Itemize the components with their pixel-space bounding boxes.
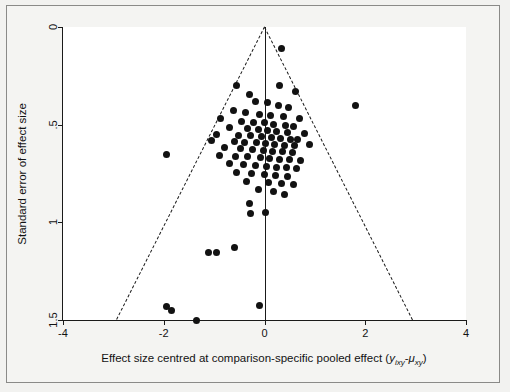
scatter-point xyxy=(248,170,255,177)
y-axis-tick-label: 1 xyxy=(48,219,59,225)
scatter-point xyxy=(296,115,303,122)
scatter-point xyxy=(270,188,277,195)
plot-area: -4-20240.511.5 xyxy=(62,27,466,321)
scatter-point xyxy=(244,153,251,160)
scatter-point xyxy=(260,147,267,154)
scatter-point xyxy=(278,45,285,52)
scatter-point xyxy=(262,140,269,147)
y-axis-title: Standard error of effect size xyxy=(14,27,30,321)
scatter-point xyxy=(266,155,273,162)
scatter-point xyxy=(226,124,233,131)
scatter-point xyxy=(290,181,297,188)
scatter-point xyxy=(237,145,244,152)
x-axis-title-prefix: Effect size centred at comparison-specif… xyxy=(101,352,389,364)
y-axis-tick-label: 1.5 xyxy=(48,312,59,327)
scatter-point xyxy=(297,157,304,164)
y-axis-tick-label: .5 xyxy=(48,120,59,129)
scatter-point xyxy=(252,98,259,105)
scatter-point xyxy=(255,126,262,133)
x-axis-tick-label: 4 xyxy=(463,327,469,339)
funnel-plot-figure: Standard error of effect size -4-20240.5… xyxy=(0,0,510,392)
scatter-point xyxy=(291,142,298,149)
scatter-point xyxy=(242,109,249,116)
scatter-point xyxy=(243,178,250,185)
x-axis-tick-label: 2 xyxy=(362,327,368,339)
scatter-point xyxy=(253,139,260,146)
scatter-point xyxy=(284,173,291,180)
x-axis-tick xyxy=(365,320,366,325)
scatter-point xyxy=(268,134,275,141)
scatter-point xyxy=(269,148,276,155)
scatter-point xyxy=(256,111,263,118)
scatter-point xyxy=(250,119,257,126)
scatter-point xyxy=(273,164,280,171)
scatter-point xyxy=(289,149,296,156)
x-axis-tick-label: 0 xyxy=(261,327,267,339)
scatter-point xyxy=(306,141,313,148)
scatter-point xyxy=(301,130,308,137)
scatter-point xyxy=(352,102,359,109)
scatter-point xyxy=(264,99,271,106)
x-axis-tick-label: -2 xyxy=(159,327,169,339)
scatter-point xyxy=(233,169,240,176)
scatter-point xyxy=(283,164,290,171)
scatter-point xyxy=(280,113,287,120)
x-axis-title: Effect size centred at comparison-specif… xyxy=(62,352,466,367)
scatter-point xyxy=(276,82,283,89)
scatter-point xyxy=(261,119,268,126)
scatter-point xyxy=(213,249,220,256)
scatter-point xyxy=(249,146,256,153)
scatter-point xyxy=(216,152,223,159)
scatter-point xyxy=(262,209,269,216)
scatter-point xyxy=(286,156,293,163)
scatter-point xyxy=(271,141,278,148)
scatter-point xyxy=(261,171,268,178)
plot-inner xyxy=(63,27,466,320)
scatter-point xyxy=(281,191,288,198)
scatter-point xyxy=(290,123,297,130)
scatter-point xyxy=(233,82,240,89)
scatter-point xyxy=(168,307,175,314)
scatter-point xyxy=(246,200,253,207)
scatter-point xyxy=(278,180,285,187)
scatter-point xyxy=(246,91,253,98)
scatter-point xyxy=(221,144,228,151)
scatter-point xyxy=(247,210,254,217)
scatter-point xyxy=(257,154,264,161)
scatter-point xyxy=(293,165,300,172)
scatter-point xyxy=(272,172,279,179)
scatter-point xyxy=(231,244,238,251)
scatter-point xyxy=(217,115,224,122)
scatter-point xyxy=(238,118,245,125)
x-axis-tick xyxy=(466,320,467,325)
scatter-point xyxy=(226,160,233,167)
scatter-point xyxy=(275,102,282,109)
y-axis-tick-label: 0 xyxy=(48,24,59,30)
scatter-point xyxy=(213,131,220,138)
scatter-point xyxy=(277,135,284,142)
scatter-point xyxy=(284,129,291,136)
x-axis-title-suffix: ) xyxy=(423,352,427,364)
scatter-point xyxy=(265,179,272,186)
scatter-point xyxy=(252,162,259,169)
scatter-point xyxy=(255,186,262,193)
y-axis-title-text: Standard error of effect size xyxy=(16,103,28,245)
scatter-point xyxy=(263,163,270,170)
x-axis-tick xyxy=(63,320,64,325)
scatter-point xyxy=(231,138,238,145)
scatter-point xyxy=(273,128,280,135)
scatter-point xyxy=(193,317,200,324)
scatter-point xyxy=(285,104,292,111)
scatter-point xyxy=(240,161,247,168)
x-axis-tick xyxy=(265,320,266,325)
scatter-point xyxy=(279,148,286,155)
scatter-point xyxy=(247,132,254,139)
scatter-point xyxy=(264,127,271,134)
scatter-point xyxy=(205,249,212,256)
scatter-point xyxy=(208,137,215,144)
x-axis-title-y-sub: ixy xyxy=(395,358,405,367)
scatter-point xyxy=(267,112,274,119)
scatter-point xyxy=(256,302,263,309)
scatter-point xyxy=(232,153,239,160)
scatter-point xyxy=(230,107,237,114)
